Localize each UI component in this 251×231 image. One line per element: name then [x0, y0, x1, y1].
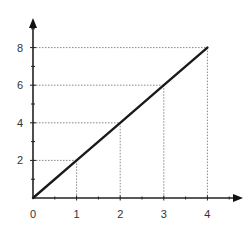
series-line: [33, 48, 207, 198]
y-tick-label: 6: [17, 79, 23, 91]
line-chart: 012342468: [0, 0, 251, 231]
x-axis-arrow-icon: [233, 194, 243, 202]
x-tick-label: 0: [30, 208, 36, 220]
x-tick-label: 2: [117, 208, 123, 220]
y-tick-label: 8: [17, 42, 23, 54]
x-tick-label: 3: [161, 208, 167, 220]
y-axis-arrow-icon: [29, 18, 37, 28]
tick-labels: 012342468: [17, 42, 211, 220]
data-series: [33, 48, 207, 198]
y-tick-label: 4: [17, 117, 23, 129]
y-tick-label: 2: [17, 154, 23, 166]
x-tick-label: 1: [74, 208, 80, 220]
x-tick-label: 4: [204, 208, 210, 220]
